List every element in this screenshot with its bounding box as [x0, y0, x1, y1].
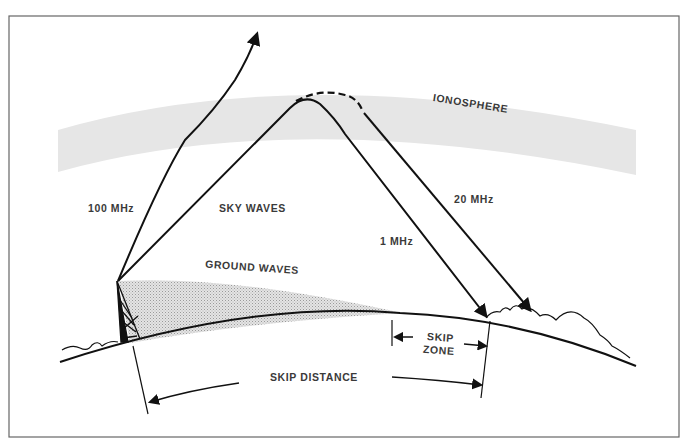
skip-distance-right-arrow: [392, 377, 481, 385]
label-100mhz: 100 MHz: [88, 202, 134, 214]
label-sky-waves: SKY WAVES: [219, 202, 286, 214]
terrain-right: [486, 306, 630, 358]
label-1mhz: 1 MHz: [380, 235, 413, 247]
label-skip-distance: SKIP DISTANCE: [270, 371, 358, 383]
skip-boundary-line: [481, 321, 490, 398]
label-20mhz: 20 MHz: [454, 193, 494, 205]
skip-zone-right-arrow: [464, 344, 486, 346]
label-skip-zone-1: SKIP: [427, 330, 455, 344]
wave-100mhz: [118, 34, 257, 281]
skip-distance-left-arrow: [150, 383, 239, 402]
terrain-left: [62, 342, 118, 351]
label-ground-waves: GROUND WAVES: [205, 258, 300, 277]
radio-propagation-diagram: IONOSPHERE 100 MHz SKY WAVES 20 MHz 1 MH…: [0, 0, 689, 446]
skip-distance-left-tick: [133, 346, 148, 414]
label-skip-zone-2: ZONE: [423, 343, 455, 357]
